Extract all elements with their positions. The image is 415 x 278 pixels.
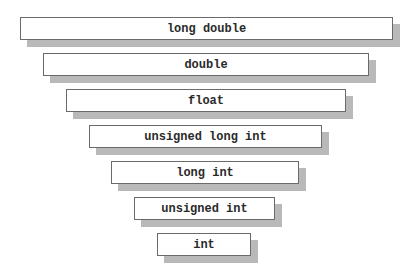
box-unsigned-int: unsigned int <box>134 197 275 220</box>
box-unsigned-long-int: unsigned long int <box>89 125 322 148</box>
box-double: double <box>43 53 369 76</box>
box-float: float <box>66 89 346 112</box>
box-int: int <box>157 233 251 256</box>
box-long-int: long int <box>111 161 299 184</box>
box-long-double: long double <box>20 17 393 40</box>
